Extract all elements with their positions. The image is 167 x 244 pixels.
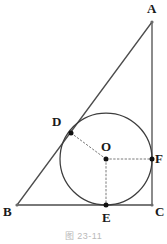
point-f <box>150 157 155 162</box>
label-b: B <box>3 205 12 218</box>
point-d <box>69 131 74 136</box>
label-f: F <box>155 152 163 165</box>
label-d: D <box>52 115 61 128</box>
point-b <box>15 203 18 206</box>
label-e: E <box>102 211 111 224</box>
geometry-canvas <box>0 0 167 244</box>
label-a: A <box>147 2 156 15</box>
point-c <box>150 203 153 206</box>
point-a <box>150 20 153 23</box>
figure-caption: 图 23-11 <box>0 231 167 242</box>
label-c: C <box>155 205 164 218</box>
point-o <box>104 157 109 162</box>
label-o: O <box>101 140 111 153</box>
geometry-figure: A B C D E F O 图 23-11 <box>0 0 167 244</box>
segment-ab <box>17 22 152 205</box>
point-e <box>104 203 109 208</box>
